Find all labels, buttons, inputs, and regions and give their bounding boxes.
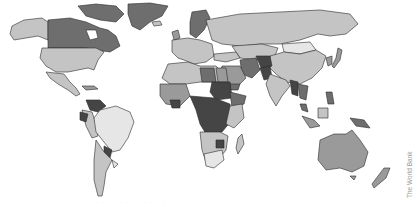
region-zimbabwe	[216, 140, 224, 148]
region-alaska	[10, 18, 48, 40]
region-southeast-asia	[298, 84, 308, 100]
footnote-text: · · · · · · · · · · · · · ·	[90, 199, 172, 205]
region-ivory-coast	[170, 100, 180, 108]
region-turkey	[214, 52, 240, 62]
region-australia	[318, 130, 368, 172]
region-brazil	[94, 106, 134, 152]
region-malaysia	[300, 104, 308, 112]
region-uk	[172, 30, 180, 40]
region-arctic-islands	[78, 4, 124, 22]
region-mexico	[46, 72, 80, 96]
region-russia	[206, 10, 358, 46]
region-borneo	[318, 108, 328, 118]
region-myanmar	[290, 80, 298, 96]
region-sudan	[210, 82, 232, 100]
region-yemen	[230, 84, 240, 90]
region-new-zealand	[372, 168, 390, 188]
region-uruguay	[112, 160, 118, 168]
region-western-europe	[172, 38, 214, 64]
region-libya	[200, 68, 216, 82]
region-greenland	[128, 3, 168, 30]
region-caribbean	[82, 86, 98, 90]
credit-text: The World Bank	[406, 152, 413, 198]
region-philippines	[326, 92, 334, 104]
region-usa	[40, 48, 104, 72]
region-madagascar	[236, 134, 244, 154]
region-iceland	[152, 21, 162, 26]
region-canada	[48, 18, 120, 52]
world-map	[0, 0, 420, 207]
region-japan	[332, 48, 342, 68]
region-egypt	[216, 68, 228, 82]
region-indonesia	[302, 116, 320, 128]
region-korea	[326, 56, 332, 66]
region-central-africa	[190, 96, 232, 134]
attribution: The World Bank	[404, 150, 416, 200]
region-papua	[350, 118, 370, 128]
region-tasmania	[350, 176, 356, 180]
